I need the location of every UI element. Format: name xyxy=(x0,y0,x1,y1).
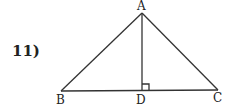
label-d: D xyxy=(136,93,146,107)
label-a: A xyxy=(136,0,146,13)
segment-ac xyxy=(142,13,218,90)
label-b: B xyxy=(56,93,65,107)
label-c: C xyxy=(213,91,222,105)
triangle-diagram: A B D C xyxy=(0,0,234,110)
segment-bc xyxy=(61,90,218,91)
segment-ab xyxy=(61,13,142,91)
